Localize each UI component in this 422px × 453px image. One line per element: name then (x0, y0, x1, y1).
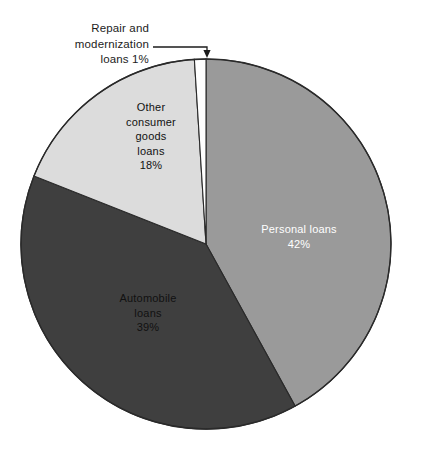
callout-line-3: loans 1% (0, 52, 149, 68)
slice-2-line-1: Other (126, 100, 176, 115)
leader-arrowhead-icon (203, 50, 210, 58)
pie-chart-canvas (0, 0, 422, 453)
pie-chart: Repair and modernization loans 1% Person… (0, 0, 422, 453)
slice-2-line-2: consumer (126, 114, 176, 129)
pie-slice-label-automobile-loans: Automobile loans 39% (119, 291, 176, 335)
callout-line-1: Repair and (0, 21, 149, 37)
slice-1-line-3: 39% (119, 320, 176, 335)
slice-1-line-2: loans (119, 306, 176, 321)
pie-slice-label-other-consumer-goods-loans: Other consumer goods loans 18% (126, 100, 176, 173)
slice-2-line-3: goods (126, 129, 176, 144)
slice-2-line-4: loans (126, 143, 176, 158)
slice-0-line-1: Personal loans (261, 222, 337, 237)
callout-line-2: modernization (0, 37, 149, 53)
callout-leader-line (153, 47, 211, 58)
slice-1-line-1: Automobile (119, 291, 176, 306)
pie-slice-label-personal-loans: Personal loans 42% (261, 222, 337, 251)
callout-label-repair-and-modernization: Repair and modernization loans 1% (0, 21, 149, 68)
slice-2-line-5: 18% (126, 158, 176, 173)
slice-0-line-2: 42% (261, 236, 337, 251)
